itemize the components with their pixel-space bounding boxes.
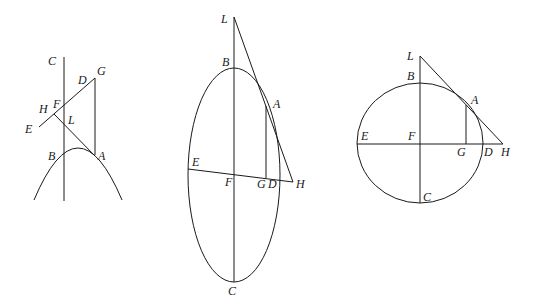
- label-C: C: [48, 54, 57, 68]
- label-A: A: [97, 149, 106, 163]
- label-G: G: [457, 145, 466, 159]
- label-H: H: [38, 102, 49, 116]
- figure-ellipse: L B A E F G D H C: [188, 12, 306, 298]
- label-E: E: [191, 155, 200, 169]
- label-B: B: [407, 69, 415, 83]
- label-G: G: [97, 64, 106, 78]
- figure-circle: L B A E F G D H C: [357, 49, 511, 204]
- label-L: L: [67, 113, 75, 127]
- label-D: D: [483, 145, 493, 159]
- label-C: C: [228, 284, 237, 298]
- label-B: B: [48, 149, 56, 163]
- label-D: D: [267, 177, 277, 191]
- tangent-line-LH: [234, 17, 293, 182]
- label-F: F: [407, 129, 416, 143]
- label-L: L: [406, 49, 414, 63]
- label-C: C: [423, 190, 432, 204]
- line-EH: [188, 169, 293, 182]
- label-H: H: [500, 145, 511, 159]
- label-L: L: [220, 12, 228, 26]
- label-H: H: [295, 177, 306, 191]
- label-E: E: [24, 122, 33, 136]
- figure-parabola: C G D F H E L B A: [24, 54, 122, 201]
- label-G: G: [257, 177, 266, 191]
- label-A: A: [272, 97, 281, 111]
- label-A: A: [470, 93, 479, 107]
- label-F: F: [224, 175, 233, 189]
- tangent-line-LH: [420, 56, 503, 144]
- label-D: D: [77, 73, 87, 87]
- label-E: E: [360, 129, 369, 143]
- conic-sections-diagram: C G D F H E L B A L B A E F G D H C L B …: [0, 0, 533, 304]
- label-F: F: [52, 97, 61, 111]
- label-B: B: [222, 55, 230, 69]
